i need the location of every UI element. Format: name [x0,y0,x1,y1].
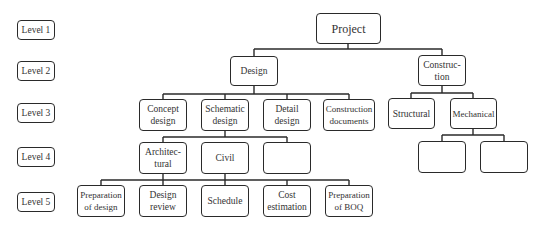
node-detail-design: Detail design [263,99,311,131]
node-cost-estimation: Cost estimation [263,185,311,217]
level-5-label: Level 5 [17,192,55,212]
node-construction: Construc- tion [418,55,466,86]
level-2-label: Level 2 [17,61,55,81]
level-1-label: Level 1 [17,20,55,40]
node-preparation-of-boq: Preparation of BOQ [325,185,373,217]
node-project: Project [316,13,381,44]
node-construction-documents: Construction documents [323,99,375,131]
level-3-label: Level 3 [17,103,55,123]
node-empty-mechanical-1 [418,141,466,173]
node-design-review: Design review [139,185,187,217]
node-structural: Structural [388,98,435,129]
node-empty-mechanical-2 [480,141,528,173]
node-empty-design-l4 [263,142,311,174]
node-civil: Civil [201,142,249,174]
node-architectural: Architec- tural [139,142,187,174]
node-design: Design [230,56,278,86]
level-4-label: Level 4 [17,147,55,167]
node-schematic-design: Schematic design [201,99,249,131]
node-mechanical: Mechanical [450,98,497,129]
node-preparation-of-design: Preparation of design [77,185,125,217]
node-schedule: Schedule [201,185,249,217]
node-concept-design: Concept design [139,99,187,131]
